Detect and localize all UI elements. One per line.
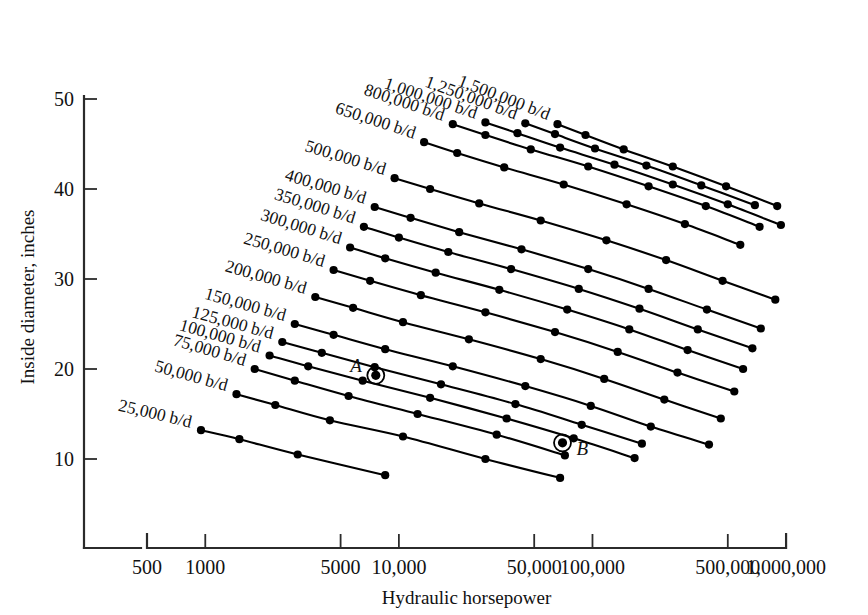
curve-label-25-000-b-d: 25,000 b/d — [116, 395, 194, 432]
curve-data-point — [578, 421, 586, 429]
curve-data-point — [602, 236, 610, 244]
curve-data-point — [575, 285, 583, 293]
curve-data-point — [345, 392, 353, 400]
hydraulic-horsepower-chart: 25,000 b/d50,000 b/d75,000 b/d100,000 b/… — [0, 0, 868, 615]
curve-data-point — [395, 234, 403, 242]
curve-data-point — [391, 174, 399, 182]
y-tick-label: 20 — [54, 358, 74, 380]
curve-data-point — [251, 365, 259, 373]
curve-series — [197, 426, 389, 479]
curve-data-point — [645, 182, 653, 190]
curve-data-point — [561, 451, 569, 459]
x-tick-label: 1,000,000 — [746, 556, 826, 578]
curve-data-point — [294, 450, 302, 458]
curve-data-point — [503, 414, 511, 422]
curve-data-point — [537, 216, 545, 224]
curve-data-point — [614, 348, 622, 356]
point-label-A: A — [348, 355, 362, 376]
curve-data-point — [371, 203, 379, 211]
x-axis-title: Hydraulic horsepower — [382, 587, 552, 608]
curve-data-point — [437, 380, 445, 388]
curve-data-point — [366, 277, 374, 285]
curve-data-point — [527, 145, 535, 153]
curve-data-point — [444, 248, 452, 256]
y-tick-label: 10 — [54, 448, 74, 470]
curve-data-point — [426, 394, 434, 402]
curve-line — [237, 394, 561, 478]
axes-layer: 10203040505001000500010,00050,000100,000… — [17, 88, 826, 608]
curve-data-point — [717, 414, 725, 422]
figure-root: 25,000 b/d50,000 b/d75,000 b/d100,000 b/… — [0, 0, 868, 615]
curve-data-point — [751, 201, 759, 209]
curve-data-point — [455, 228, 463, 236]
curve-data-point — [581, 131, 589, 139]
curve-data-point — [399, 432, 407, 440]
y-tick-label: 40 — [54, 178, 74, 200]
curve-data-point — [703, 306, 711, 314]
curve-data-point — [417, 291, 425, 299]
curve-data-point — [642, 162, 650, 170]
curve-data-point — [694, 325, 702, 333]
curve-data-point — [311, 293, 319, 301]
curve-series — [291, 320, 713, 449]
curve-data-point — [669, 162, 677, 170]
curve-data-point — [702, 202, 710, 210]
curve-data-point — [399, 318, 407, 326]
curve-data-point — [278, 338, 286, 346]
curve-data-point — [407, 214, 415, 222]
curve-data-point — [235, 435, 243, 443]
curve-data-point — [360, 223, 368, 231]
curve-data-point — [771, 296, 779, 304]
curve-data-point — [739, 365, 747, 373]
curve-data-point — [777, 221, 785, 229]
curve-data-point — [453, 149, 461, 157]
curve-data-point — [684, 346, 692, 354]
point-label-B: B — [577, 438, 589, 459]
curve-data-point — [553, 120, 561, 128]
curve-data-point — [349, 304, 357, 312]
curve-data-point — [673, 369, 681, 377]
curve-data-point — [669, 180, 677, 188]
curve-data-point — [381, 471, 389, 479]
curve-line — [525, 123, 755, 205]
curve-line — [424, 142, 740, 245]
curve-data-point — [493, 431, 501, 439]
curve-line — [395, 178, 776, 300]
curve-data-point — [610, 161, 618, 169]
curve-series — [330, 266, 739, 396]
curve-data-point — [481, 118, 489, 126]
curve-data-point — [647, 423, 655, 431]
curve-data-point — [563, 306, 571, 314]
curve-data-point — [326, 416, 334, 424]
curve-data-point — [521, 119, 529, 127]
x-tick-label: 10,000 — [371, 556, 426, 578]
curve-data-point — [556, 144, 564, 152]
curve-data-point — [511, 400, 519, 408]
curve-data-point — [600, 375, 608, 383]
curve-data-point — [271, 401, 279, 409]
curve-data-point — [748, 344, 756, 352]
curve-data-point — [475, 199, 483, 207]
x-tick-label: 500 — [132, 556, 162, 578]
curve-data-point — [291, 377, 299, 385]
y-tick-label: 50 — [54, 88, 74, 110]
curve-line — [201, 430, 385, 475]
curve-data-point — [556, 474, 564, 482]
curve-data-point — [432, 269, 440, 277]
curve-data-point — [645, 285, 653, 293]
curve-data-point — [330, 266, 338, 274]
point-marker-core — [371, 371, 380, 380]
curve-data-point — [481, 131, 489, 139]
curve-data-point — [381, 254, 389, 262]
point-marker-core — [558, 438, 567, 447]
curve-data-point — [724, 200, 732, 208]
curve-data-point — [521, 382, 529, 390]
curve-data-point — [291, 320, 299, 328]
curve-data-point — [449, 120, 457, 128]
curve-data-point — [662, 256, 670, 264]
curve-data-point — [517, 245, 525, 253]
curve-data-point — [705, 441, 713, 449]
curve-data-point — [736, 241, 744, 249]
curve-data-point — [420, 138, 428, 146]
curve-data-point — [359, 377, 367, 385]
